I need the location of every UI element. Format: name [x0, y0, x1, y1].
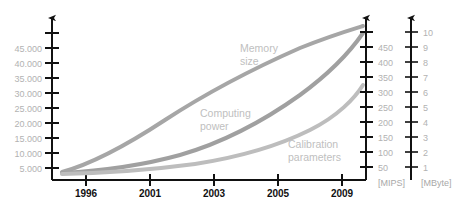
left-axis-tick-label: 45.000: [14, 44, 42, 54]
left-axis-tick-label: 20.000: [14, 119, 42, 129]
mbyte-axis-tick-labels: 1 2 3 4 5 6 7 8 9 10: [423, 28, 433, 173]
mbyte-axis-tick-label: 2: [423, 148, 428, 158]
mips-axis-tick-label: 300: [378, 88, 393, 98]
mips-axis-tick-label: 200: [378, 118, 393, 128]
x-axis-tick-label: 1996: [75, 188, 98, 199]
x-axis-tick-label: 2009: [331, 188, 354, 199]
left-axis-tick-label: 15.000: [14, 134, 42, 144]
mips-axis-tick-labels: 50 100 150 200 250 300 350 400 450: [378, 43, 393, 173]
mips-axis-tick-label: 450: [378, 43, 393, 53]
mbyte-axis-tick-label: 7: [423, 73, 428, 83]
mips-axis: 50 100 150 200 250 300 350 400 450 [MIPS…: [360, 18, 405, 188]
left-axis-tick-label: 35.000: [14, 74, 42, 84]
memory-size-label-line1: Memory: [240, 42, 279, 54]
calibration-parameters-label: Calibration parameters: [288, 138, 341, 163]
growth-trends-chart: 5.000 10.000 15.000 20.000 25.000 30.000…: [0, 0, 465, 201]
mips-axis-tick-label: 400: [378, 58, 393, 68]
mbyte-axis-tick-label: 9: [423, 43, 428, 53]
calibration-parameters-label-line1: Calibration: [288, 138, 338, 150]
mbyte-axis-tick-label: 1: [423, 163, 428, 173]
computing-power-label-line2: power: [200, 120, 229, 132]
mbyte-unit-label: [MByte]: [421, 178, 452, 188]
left-axis-tick-label: 40.000: [14, 59, 42, 69]
mbyte-axis-tick-label: 10: [423, 28, 433, 38]
x-axis-tick-label: 2001: [139, 188, 162, 199]
mips-axis-tick-label: 150: [378, 133, 393, 143]
mbyte-axis-tick-label: 5: [423, 103, 428, 113]
left-axis-tick-label: 10.000: [14, 149, 42, 159]
left-axis-tick-labels: 5.000 10.000 15.000 20.000 25.000 30.000…: [14, 44, 42, 174]
x-axis-tick-label: 2005: [267, 188, 290, 199]
left-axis: 5.000 10.000 15.000 20.000 25.000 30.000…: [14, 18, 59, 180]
mbyte-axis: 1 2 3 4 5 6 7 8 9 10 [MByte]: [405, 18, 452, 188]
x-axis-tick-labels: 1996 2001 2003 2005 2009: [75, 188, 354, 199]
memory-size-label-line2: size: [240, 55, 259, 67]
calibration-parameters-label-line2: parameters: [288, 151, 341, 163]
mips-axis-tick-label: 250: [378, 103, 393, 113]
chart-container: 5.000 10.000 15.000 20.000 25.000 30.000…: [0, 0, 465, 201]
mbyte-axis-tick-label: 4: [423, 118, 428, 128]
memory-size-label: Memory size: [240, 42, 279, 67]
x-axis: 1996 2001 2003 2005 2009: [52, 174, 366, 199]
mips-axis-tick-label: 50: [378, 163, 388, 173]
left-axis-tick-label: 25.000: [14, 104, 42, 114]
mbyte-axis-tick-label: 3: [423, 133, 428, 143]
mips-unit-label: [MIPS]: [378, 178, 405, 188]
mbyte-axis-tick-label: 6: [423, 88, 428, 98]
mbyte-axis-tick-label: 8: [423, 58, 428, 68]
left-axis-tick-label: 30.000: [14, 89, 42, 99]
computing-power-label-line1: Computing: [200, 107, 251, 119]
x-axis-tick-label: 2003: [203, 188, 226, 199]
mips-axis-tick-label: 100: [378, 148, 393, 158]
left-axis-tick-label: 5.000: [19, 164, 42, 174]
mips-axis-tick-label: 350: [378, 73, 393, 83]
